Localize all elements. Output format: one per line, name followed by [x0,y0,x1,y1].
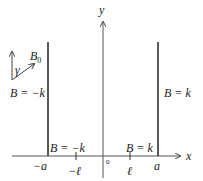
tick-label-neg-a: −a [33,160,47,172]
left-wall-label: B = −k [10,87,45,99]
tick-label-neg-l: −ℓ [68,165,81,177]
right-bottom-label: B = k [126,142,153,154]
b0-label: B0 [30,50,41,65]
left-bottom-label: B = −k [50,142,85,154]
magnetic-field-diagram: y x 0 −a −ℓ ℓ a B = −k B = k B = −k B = … [0,0,203,181]
tick-label-l: ℓ [127,165,132,177]
origin-label: 0 [106,159,110,166]
tick-label-a: a [154,160,160,172]
y-axis-label: y [99,4,104,16]
gamma-label: γ [15,64,20,76]
x-axis-label: x [186,150,191,162]
right-wall-label: B = k [164,87,191,99]
